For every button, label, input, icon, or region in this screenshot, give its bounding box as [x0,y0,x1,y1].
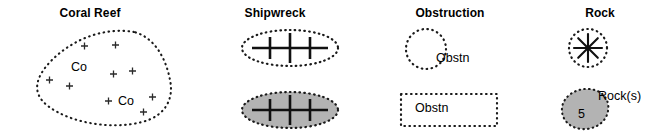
column-header-rock: Rock [540,6,660,20]
shipwreck-outline-wreck-glyph [252,33,328,63]
coral-reef-inner-label-2: Co [118,94,134,108]
chart-symbol-legend: Coral Reef Shipwreck Obstruction Rock Co… [0,0,663,134]
obstruction-circle-label: Obstn [436,51,469,65]
coral-reef-inner-label-1: Co [71,60,87,74]
coral-plus-marks [46,42,156,116]
obstruction-rectangle-symbol [399,92,499,128]
rock-asterisk-icon [574,34,602,62]
rock-star-symbol [562,25,614,73]
shipwreck-filled-symbol [238,88,342,132]
coral-reef-area-symbol: Co Co [26,24,176,134]
coral-reef-boundary [37,31,171,125]
column-header-shipwreck: Shipwreck [195,6,355,20]
obstruction-rectangle-inner-label: Obstn [415,101,448,115]
rock-blob-sounding-value: 5 [578,107,585,121]
column-header-obstruction: Obstruction [370,6,530,20]
shipwreck-outline-symbol [238,26,342,70]
rock-blob-label: Rock(s) [598,89,641,103]
column-header-coral-reef: Coral Reef [0,6,180,20]
